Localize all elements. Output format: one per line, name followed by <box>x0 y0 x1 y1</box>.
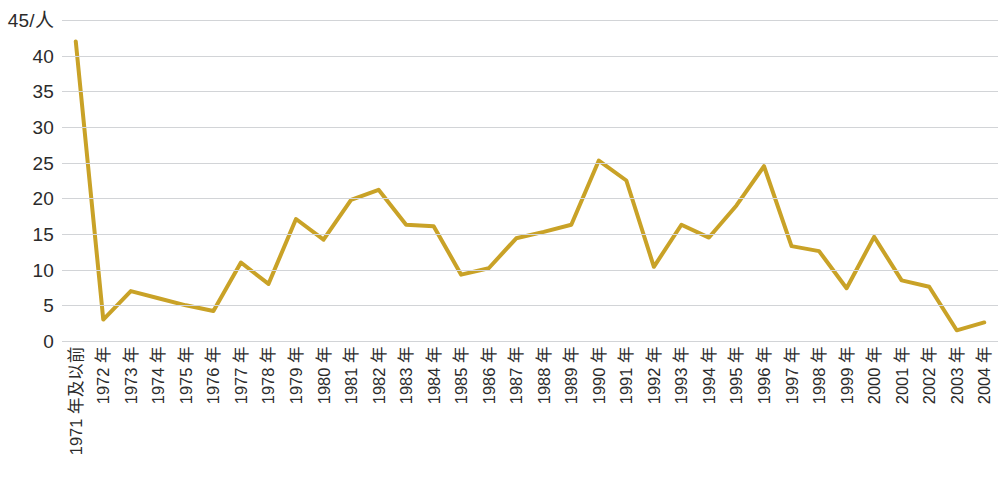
y-tick-label: 40 <box>32 46 54 65</box>
x-tick-label: 1982 年 <box>370 346 387 404</box>
x-axis: 1971 年及以前1972 年1973 年1974 年1975 年1976 年1… <box>62 344 998 498</box>
x-tick-label: 1974 年 <box>150 346 167 404</box>
x-tick: 1983 年 <box>396 344 416 494</box>
x-tick: 1988 年 <box>534 344 554 494</box>
x-tick-label: 1997 年 <box>783 346 800 404</box>
x-tick: 1971 年及以前 <box>66 344 86 494</box>
gridline <box>62 163 998 164</box>
x-tick: 1981 年 <box>341 344 361 494</box>
x-tick: 1987 年 <box>506 344 526 494</box>
x-tick: 1998 年 <box>809 344 829 494</box>
x-tick: 2001 年 <box>892 344 912 494</box>
x-tick-label: 1984 年 <box>425 346 442 404</box>
x-tick-label: 1977 年 <box>233 346 250 404</box>
x-tick: 1999 年 <box>837 344 857 494</box>
y-axis: 45/人4035302520151050 <box>0 0 58 361</box>
x-tick: 1994 年 <box>699 344 719 494</box>
y-tick-label: 25 <box>32 153 54 172</box>
x-tick: 2003 年 <box>947 344 967 494</box>
x-tick-label: 1973 年 <box>123 346 140 404</box>
x-tick: 1995 年 <box>726 344 746 494</box>
x-tick-label: 1983 年 <box>398 346 415 404</box>
x-tick-label: 1981 年 <box>343 346 360 404</box>
x-tick: 1973 年 <box>121 344 141 494</box>
x-tick-label: 1994 年 <box>701 346 718 404</box>
x-tick-label: 1990 年 <box>591 346 608 404</box>
y-tick-label: 5 <box>43 296 54 315</box>
x-tick: 1979 年 <box>286 344 306 494</box>
x-tick-label: 1995 年 <box>728 346 745 404</box>
y-tick-label: 10 <box>32 260 54 279</box>
x-tick: 1985 年 <box>451 344 471 494</box>
x-tick: 1984 年 <box>424 344 444 494</box>
x-tick: 1993 年 <box>671 344 691 494</box>
x-tick: 1991 年 <box>616 344 636 494</box>
y-tick-label: 45/人 <box>8 11 54 30</box>
x-tick: 1996 年 <box>754 344 774 494</box>
x-tick: 2004 年 <box>974 344 994 494</box>
y-tick-label: 0 <box>43 332 54 351</box>
gridline <box>62 198 998 199</box>
x-tick-label: 1972 年 <box>95 346 112 404</box>
data-series-line <box>62 20 998 341</box>
x-tick-label: 1989 年 <box>563 346 580 404</box>
x-tick-label: 1999 年 <box>838 346 855 404</box>
plot-area <box>62 20 998 341</box>
x-tick: 1980 年 <box>314 344 334 494</box>
x-tick-label: 1978 年 <box>260 346 277 404</box>
line-chart: 45/人4035302520151050 1971 年及以前1972 年1973… <box>0 0 1002 498</box>
gridline <box>62 341 998 342</box>
x-tick-label: 1971 年及以前 <box>68 346 85 455</box>
y-tick-label: 35 <box>32 82 54 101</box>
x-tick: 1977 年 <box>231 344 251 494</box>
x-tick-label: 1975 年 <box>178 346 195 404</box>
x-tick-label: 1979 年 <box>288 346 305 404</box>
gridline <box>62 91 998 92</box>
x-tick-label: 1996 年 <box>756 346 773 404</box>
x-tick-label: 1976 年 <box>205 346 222 404</box>
x-tick-label: 1986 年 <box>480 346 497 404</box>
gridline <box>62 20 998 21</box>
x-tick: 1982 年 <box>369 344 389 494</box>
x-tick-label: 2000 年 <box>866 346 883 404</box>
x-tick: 1975 年 <box>176 344 196 494</box>
gridline <box>62 127 998 128</box>
x-tick: 1997 年 <box>782 344 802 494</box>
x-tick-label: 1985 年 <box>453 346 470 404</box>
gridline <box>62 234 998 235</box>
gridline <box>62 56 998 57</box>
y-tick-label: 20 <box>32 189 54 208</box>
x-tick-label: 1992 年 <box>646 346 663 404</box>
x-tick-label: 1998 年 <box>811 346 828 404</box>
x-tick: 1978 年 <box>258 344 278 494</box>
gridline <box>62 305 998 306</box>
x-tick-label: 1991 年 <box>618 346 635 404</box>
x-tick: 1992 年 <box>644 344 664 494</box>
y-tick-label: 30 <box>32 118 54 137</box>
x-tick-label: 2003 年 <box>948 346 965 404</box>
x-tick-label: 1993 年 <box>673 346 690 404</box>
x-tick-label: 2004 年 <box>976 346 993 404</box>
x-tick: 2002 年 <box>919 344 939 494</box>
x-tick: 1989 年 <box>561 344 581 494</box>
gridline <box>62 270 998 271</box>
x-tick: 1974 年 <box>148 344 168 494</box>
x-tick-label: 1988 年 <box>536 346 553 404</box>
x-tick: 1972 年 <box>93 344 113 494</box>
y-tick-label: 15 <box>32 225 54 244</box>
x-tick: 1986 年 <box>479 344 499 494</box>
x-tick-label: 1980 年 <box>315 346 332 404</box>
x-tick-label: 2002 年 <box>921 346 938 404</box>
x-tick-label: 2001 年 <box>893 346 910 404</box>
x-tick: 1976 年 <box>203 344 223 494</box>
x-tick-label: 1987 年 <box>508 346 525 404</box>
x-tick: 2000 年 <box>864 344 884 494</box>
x-tick: 1990 年 <box>589 344 609 494</box>
